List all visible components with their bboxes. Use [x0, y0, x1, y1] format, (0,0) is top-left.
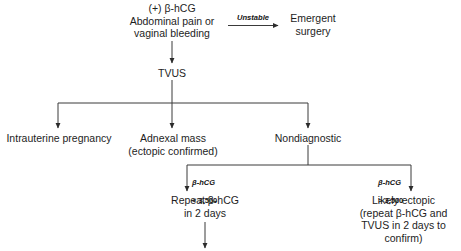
node-nondiagnostic: Nondiagnostic [258, 132, 358, 145]
condition-hcg-low-marker: β-hCG [192, 178, 215, 187]
node-repeat-hcg: Repeat β-hCG in 2 days [146, 194, 264, 219]
node-likely-ectopic: Likely ectopic (repeat β-hCG and TVUS in… [346, 194, 461, 244]
node-emergent-surgery: Emergent surgery [272, 12, 354, 37]
node-start: (+) β-hCG Abdominal pain or vaginal blee… [104, 2, 240, 40]
flowchart-diagram: (+) β-hCG Abdominal pain or vaginal blee… [0, 0, 461, 251]
node-adnexal-mass: Adnexal mass (ectopic confirmed) [112, 132, 234, 157]
node-intrauterine-pregnancy: Intrauterine pregnancy [2, 132, 116, 145]
condition-hcg-high-marker: β-hCG [378, 178, 401, 187]
node-tvus: TVUS [132, 67, 212, 80]
